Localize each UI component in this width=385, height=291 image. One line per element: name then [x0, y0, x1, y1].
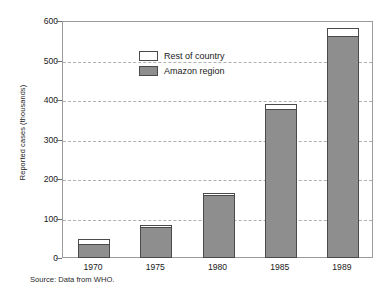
- legend-label-amazon-region: Amazon region: [164, 66, 225, 76]
- gridline-400: [63, 101, 372, 102]
- bar-segment-amazon-region-1975: [140, 227, 172, 258]
- legend-item-rest-of-country: Rest of country: [139, 49, 225, 62]
- bar-segment-amazon-region-1980: [203, 195, 235, 258]
- bar-segment-rest-of-country-1985: [265, 104, 297, 110]
- x-tick-label-1980: 1980: [188, 262, 248, 272]
- y-tick-label-600: 600: [12, 16, 58, 26]
- y-tick-label-300: 300: [12, 135, 58, 145]
- bar-1975: [140, 225, 172, 257]
- source-note: Source: Data from WHO.: [30, 275, 114, 284]
- y-tick-mark-0: [56, 258, 62, 259]
- gridline-200: [63, 180, 372, 181]
- legend-label-rest-of-country: Rest of country: [164, 51, 225, 61]
- x-tick-label-1970: 1970: [63, 262, 123, 272]
- chart-legend: Rest of country Amazon region: [139, 49, 225, 79]
- legend-item-amazon-region: Amazon region: [139, 64, 225, 77]
- y-tick-label-400: 400: [12, 95, 58, 105]
- bar-1989: [327, 28, 359, 257]
- y-tick-label-100: 100: [12, 214, 58, 224]
- bar-1970: [78, 239, 110, 257]
- bar-segment-rest-of-country-1975: [140, 225, 172, 228]
- y-tick-label-500: 500: [12, 56, 58, 66]
- y-tick-label-0: 0: [12, 253, 58, 263]
- x-tick-label-1985: 1985: [250, 262, 310, 272]
- bar-segment-rest-of-country-1989: [327, 28, 359, 37]
- bar-1980: [203, 193, 235, 257]
- bar-segment-amazon-region-1985: [265, 109, 297, 258]
- bar-segment-amazon-region-1989: [327, 36, 359, 258]
- legend-swatch-rest-of-country: [139, 51, 158, 61]
- bar-segment-rest-of-country-1970: [78, 239, 110, 245]
- legend-swatch-amazon-region: [139, 66, 158, 76]
- y-tick-label-200: 200: [12, 174, 58, 184]
- x-tick-label-1975: 1975: [125, 262, 185, 272]
- x-tick-label-1989: 1989: [312, 262, 372, 272]
- plot-area: Rest of country Amazon region: [62, 21, 373, 258]
- chart-figure: Reported cases (thousands) 0100200300400…: [0, 0, 385, 291]
- bar-segment-amazon-region-1970: [78, 244, 110, 258]
- bar-1985: [265, 104, 297, 257]
- bar-segment-rest-of-country-1980: [203, 193, 235, 196]
- gridline-300: [63, 141, 372, 142]
